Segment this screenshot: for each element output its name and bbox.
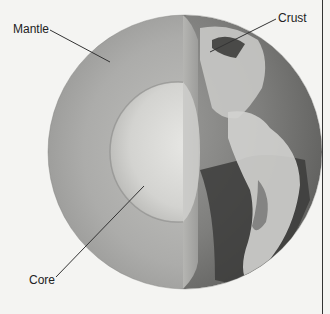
earth-cutaway-illustration [0, 0, 330, 314]
earth-diagram: Mantle Crust Core [0, 0, 330, 314]
core-label: Core [29, 274, 55, 286]
mantle-label: Mantle [13, 23, 49, 35]
right-border-divider [322, 0, 323, 314]
crust-label: Crust [278, 12, 307, 24]
